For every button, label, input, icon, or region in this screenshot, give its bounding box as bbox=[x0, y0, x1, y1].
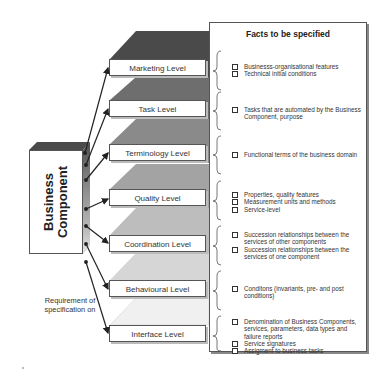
fact-item: Functional terms of the business domain bbox=[230, 151, 364, 158]
fact-item: Conditons (invariants, pre- and post con… bbox=[230, 285, 364, 300]
fact-item: Succession relationships between the ser… bbox=[230, 246, 364, 261]
requirement-label: Requirement of specification on bbox=[40, 296, 100, 314]
arrow-behavioural bbox=[86, 244, 108, 289]
fact-item: Denomination of Business Components, ser… bbox=[230, 318, 364, 340]
facts-coordination: Succession relationships between the ser… bbox=[230, 231, 364, 260]
fact-item: Assigment to business tasks bbox=[230, 347, 364, 354]
arrow-coordination bbox=[86, 226, 108, 243]
facts-title: Facts to be specified bbox=[210, 29, 366, 39]
fact-item: Technical initial conditions bbox=[230, 70, 364, 77]
business-component-specification-diagram: Business Component Marketing Level Task … bbox=[0, 0, 389, 380]
brace-icons bbox=[210, 23, 224, 353]
facts-interface: Denomination of Business Components, ser… bbox=[230, 318, 364, 354]
fact-item: Properties, quality features bbox=[230, 191, 364, 198]
fact-item: Succession relationships between the ser… bbox=[230, 231, 364, 246]
facts-quality: Properties, quality features Measurement… bbox=[230, 191, 364, 213]
facts-panel: Facts to be specified Businesss-organisa… bbox=[209, 22, 367, 352]
facts-marketing: Businesss-organisational features Techni… bbox=[230, 63, 364, 78]
fact-item: Measurement units and methods bbox=[230, 198, 364, 205]
facts-terminology: Functional terms of the business domain bbox=[230, 151, 364, 158]
facts-task: Tasks that are automated by the Business… bbox=[230, 106, 364, 121]
fact-item: Service signatures bbox=[230, 340, 364, 347]
stray-dot bbox=[22, 367, 24, 369]
arrow-marketing bbox=[85, 68, 108, 153]
fact-item: Businesss-organisational features bbox=[230, 63, 364, 70]
facts-behavioural: Conditons (invariants, pre- and post con… bbox=[230, 285, 364, 300]
arrow-quality bbox=[86, 199, 108, 209]
fact-item: Service-level bbox=[230, 206, 364, 213]
fact-item: Tasks that are automated by the Business… bbox=[230, 106, 364, 121]
